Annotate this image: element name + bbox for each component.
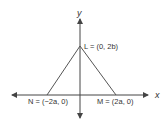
point-M-label: M = (2a, 0) xyxy=(97,97,134,106)
side-LN xyxy=(47,46,80,95)
point-N-label: N = (−2a, 0) xyxy=(28,97,69,106)
y-axis-label: y xyxy=(76,8,82,18)
side-LM xyxy=(80,46,116,95)
coordinate-diagram: y x L = (0, 2b) N = (−2a, 0) M = (2a, 0) xyxy=(0,0,167,125)
point-L-label: L = (0, 2b) xyxy=(84,42,119,51)
x-axis-label: x xyxy=(154,90,160,100)
